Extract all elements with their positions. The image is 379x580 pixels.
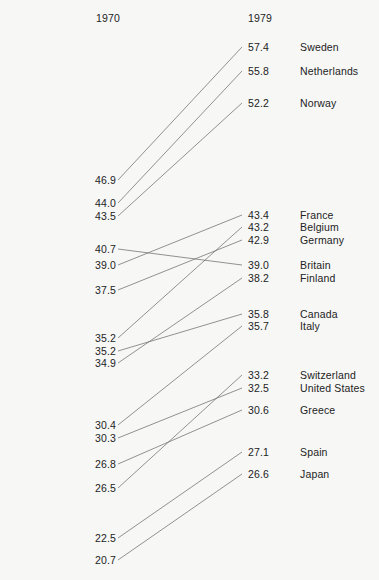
right-country-label: Netherlands xyxy=(300,65,358,78)
left-value: 26.5 xyxy=(95,482,116,495)
slope-line-sweden xyxy=(118,47,242,180)
right-country-label: Greece xyxy=(300,404,335,417)
right-value: 57.4 xyxy=(248,41,269,54)
right-value: 26.6 xyxy=(248,468,269,481)
slope-line-germany xyxy=(118,240,242,290)
right-country-label: Switzerland xyxy=(300,369,356,382)
left-value: 20.7 xyxy=(95,554,116,567)
right-value: 38.2 xyxy=(248,272,269,285)
slope-line-canada xyxy=(118,314,242,351)
left-value: 40.7 xyxy=(95,243,116,256)
left-value: 30.3 xyxy=(95,432,116,445)
slope-line-japan xyxy=(118,474,242,560)
left-value: 44.0 xyxy=(95,197,116,210)
slope-line-spain xyxy=(118,452,242,538)
column-header-1979: 1979 xyxy=(248,12,272,24)
slope-line-italy xyxy=(118,326,242,425)
left-value: 30.4 xyxy=(95,419,116,432)
slope-line-greece xyxy=(118,410,242,464)
right-country-label: Belgium xyxy=(300,221,339,234)
left-value: 35.2 xyxy=(95,332,116,345)
slope-line-britain xyxy=(118,249,242,265)
slope-line-switzerland xyxy=(118,375,242,488)
right-value: 42.9 xyxy=(248,234,269,247)
left-value: 46.9 xyxy=(95,174,116,187)
right-value: 30.6 xyxy=(248,404,269,417)
slope-line-belgium xyxy=(118,227,242,338)
slopegraph: 1970 1979 Sweden46.9Netherlands44.0Norwa… xyxy=(0,0,379,580)
right-value: 27.1 xyxy=(248,446,269,459)
right-country-label: Italy xyxy=(300,320,320,333)
left-value: 39.0 xyxy=(95,259,116,272)
right-value: 39.0 xyxy=(248,259,269,272)
right-country-label: Japan xyxy=(300,468,329,481)
left-value: 37.5 xyxy=(95,284,116,297)
right-value: 35.7 xyxy=(248,320,269,333)
column-header-1970: 1970 xyxy=(96,12,120,24)
slope-line-norway xyxy=(118,103,242,216)
right-value: 52.2 xyxy=(248,97,269,110)
right-country-label: Britain xyxy=(300,259,331,272)
right-value: 32.5 xyxy=(248,382,269,395)
right-country-label: Sweden xyxy=(300,41,339,54)
right-country-label: Norway xyxy=(300,97,337,110)
right-country-label: Spain xyxy=(300,446,328,459)
left-value: 34.9 xyxy=(95,357,116,370)
slope-line-france xyxy=(118,215,242,265)
slope-lines xyxy=(0,0,379,580)
slope-line-netherlands xyxy=(118,71,242,203)
right-value: 55.8 xyxy=(248,65,269,78)
right-value: 33.2 xyxy=(248,369,269,382)
left-value: 43.5 xyxy=(95,210,116,223)
right-value: 43.2 xyxy=(248,221,269,234)
right-country-label: Germany xyxy=(300,234,344,247)
slope-line-united-states xyxy=(118,388,242,438)
left-value: 22.5 xyxy=(95,532,116,545)
left-value: 26.8 xyxy=(95,458,116,471)
right-country-label: United States xyxy=(300,382,365,395)
slope-line-finland xyxy=(118,278,242,363)
right-country-label: Finland xyxy=(300,272,336,285)
